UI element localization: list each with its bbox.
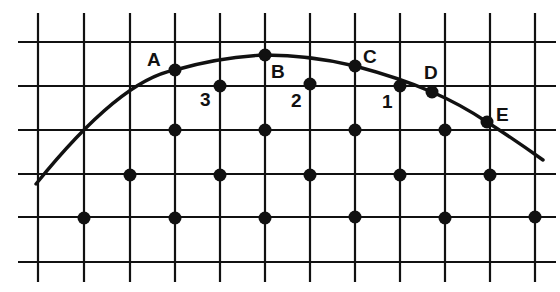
labeled-points: ABCDE — [147, 46, 509, 129]
lattice-point — [439, 124, 452, 137]
lattice-point — [214, 169, 227, 182]
point-label-e: E — [496, 104, 509, 125]
grid-lines — [18, 13, 556, 282]
point-label-c: C — [363, 46, 377, 67]
point-d — [426, 86, 439, 99]
numbered-points: 123 — [200, 78, 407, 113]
numbered-label-1: 1 — [382, 91, 393, 112]
numbered-label-2: 2 — [291, 90, 302, 111]
lattice-point — [439, 212, 452, 225]
lattice-point — [349, 211, 362, 224]
point-label-b: B — [271, 61, 285, 82]
lattice-point — [484, 169, 497, 182]
point-a — [169, 64, 182, 77]
lattice-point — [529, 211, 542, 224]
point-label-a: A — [147, 49, 161, 70]
lattice-point — [394, 169, 407, 182]
numbered-point-2 — [304, 78, 317, 91]
lattice-point — [78, 212, 91, 225]
lattice-point — [169, 124, 182, 137]
lattice-point — [259, 212, 272, 225]
lattice-point — [349, 124, 362, 137]
point-b — [259, 49, 272, 62]
grid-curve-diagram: ABCDE 123 — [0, 0, 560, 292]
lattice-point — [169, 212, 182, 225]
numbered-point-1 — [394, 80, 407, 93]
point-e — [481, 116, 494, 129]
point-label-d: D — [424, 62, 438, 83]
numbered-point-3 — [214, 80, 227, 93]
curve — [36, 55, 543, 184]
point-c — [349, 60, 362, 73]
lattice-point — [304, 169, 317, 182]
numbered-label-3: 3 — [200, 89, 211, 110]
lattice-point — [124, 169, 137, 182]
lattice-point — [259, 124, 272, 137]
